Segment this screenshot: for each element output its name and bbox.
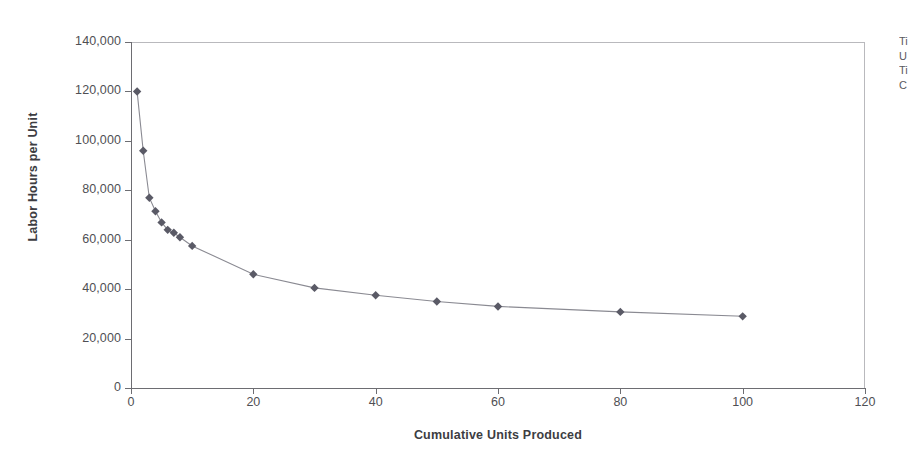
x-tick-label: 40 [356,396,396,409]
x-tick-mark [253,388,254,394]
y-tick-mark [125,339,132,340]
x-tick-label: 20 [233,396,273,409]
y-tick-label: 60,000 [49,233,121,246]
side-annotation-line: Ti [899,34,922,49]
y-tick-label: 20,000 [49,332,121,345]
x-tick-label: 80 [600,396,640,409]
y-axis-line [131,42,132,389]
y-tick-label: 40,000 [49,282,121,295]
chart-canvas: 020,00040,00060,00080,000100,000120,0001… [0,0,922,468]
x-tick-mark [376,388,377,394]
side-annotation-line: C [899,78,922,93]
y-tick-mark [125,91,132,92]
y-tick-label: 140,000 [49,35,121,48]
y-tick-mark [125,141,132,142]
x-tick-mark [498,388,499,394]
x-axis-title: Cumulative Units Produced [131,428,865,442]
x-tick-label: 60 [478,396,518,409]
y-tick-label: 100,000 [49,134,121,147]
side-annotation-line: Ti [899,63,922,78]
x-tick-mark [865,388,866,394]
y-tick-mark [125,42,132,43]
y-tick-mark [125,240,132,241]
y-tick-label: 120,000 [49,84,121,97]
y-axis-title: Labor Hours per Unit [26,82,40,272]
side-annotation-text: TiUTiC [899,34,922,92]
side-annotation-line: U [899,49,922,64]
y-tick-label: 80,000 [49,183,121,196]
y-tick-mark [125,190,132,191]
y-tick-mark [125,289,132,290]
x-tick-mark [620,388,621,394]
x-tick-label: 120 [845,396,885,409]
plot-area-frame [131,42,865,388]
x-tick-mark [743,388,744,394]
y-tick-label: 0 [49,381,121,394]
x-tick-label: 100 [723,396,763,409]
x-tick-mark [131,388,132,394]
x-tick-label: 0 [111,396,151,409]
